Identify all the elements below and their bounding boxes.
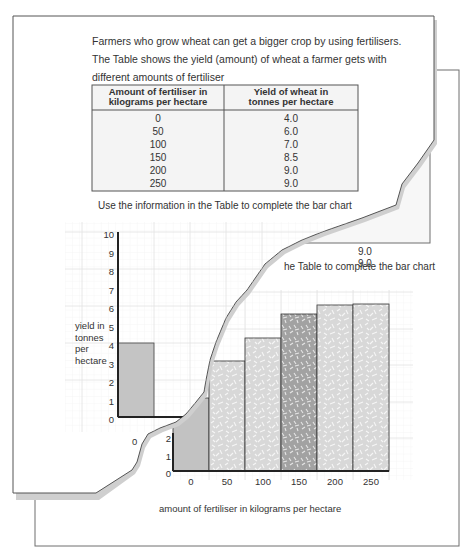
table-cell: 50: [92, 125, 224, 138]
front-x-tick-0: 0: [132, 436, 137, 447]
x-axis-label: amount of fertiliser in kilograms per he…: [159, 503, 341, 514]
table-cell: 9.0: [224, 164, 358, 177]
table-header-fertiliser: Amount of fertiliser in kilograms per he…: [92, 87, 224, 107]
back-instruction-fragment: he Table to complete the bar chart: [284, 261, 435, 272]
table-cell: 0: [92, 112, 224, 125]
table-cell: 8.5: [224, 151, 358, 164]
table-cell: 7.0: [224, 138, 358, 151]
y-axis-label: yield in tonnes per hectare: [75, 320, 107, 366]
intro-line-2: The Table shows the yield (amount) of wh…: [92, 53, 387, 65]
bar-100: [245, 338, 281, 471]
intro-line-1: Farmers who grow wheat can get a bigger …: [92, 35, 401, 47]
table-cell: 9.0: [224, 177, 358, 190]
table-column-fertiliser: 0 50 100 150 200 250: [92, 112, 224, 190]
intro-line-3: different amounts of fertiliser: [92, 71, 224, 83]
bar-250: [353, 304, 389, 471]
back-y-axis-ticks: 2 1 0: [162, 430, 171, 483]
bar-200: [317, 305, 353, 471]
back-table-value: 9.0: [358, 246, 372, 257]
table-cell: 4.0: [224, 112, 358, 125]
instruction-text: Use the information in the Table to comp…: [98, 200, 352, 211]
table-cell: 150: [92, 151, 224, 164]
x-axis-ticks: 0 50 100 150 200 250: [173, 476, 389, 487]
front-bar-0: [118, 343, 154, 417]
table-cell: 200: [92, 164, 224, 177]
table-cell: 6.0: [224, 125, 358, 138]
bar-50: [209, 361, 245, 471]
bar-150: [281, 314, 317, 471]
table-cell: 250: [92, 177, 224, 190]
table-cell: 100: [92, 138, 224, 151]
table-column-yield: 4.0 6.0 7.0 8.5 9.0 9.0: [224, 112, 358, 190]
table-header-yield: Yield of wheat in tonnes per hectare: [224, 87, 358, 107]
